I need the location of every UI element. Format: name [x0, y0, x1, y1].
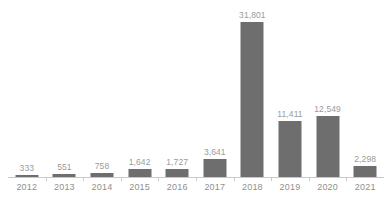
bar-value-label-2021: 2,298	[354, 154, 376, 164]
x-tick-mark	[46, 177, 47, 181]
bar-column: 1,642	[122, 4, 157, 177]
x-tick-mark	[83, 177, 84, 181]
bar-group-2013: 551	[47, 4, 82, 177]
bar-column: 758	[85, 4, 120, 177]
bar-column: 551	[47, 4, 82, 177]
bar-column: 11,411	[273, 4, 308, 177]
bar-value-label-2015: 1,642	[129, 157, 151, 167]
x-tick-2016: 2016	[160, 180, 195, 194]
x-tick-2020: 2020	[310, 180, 345, 194]
bar-chart: 3335517581,6421,7273,64131,80111,41112,5…	[0, 0, 392, 200]
bar-2016	[166, 169, 189, 177]
x-tick-mark	[121, 177, 122, 181]
bar-value-label-2012: 333	[20, 163, 34, 173]
x-tick-2021: 2021	[348, 180, 383, 194]
x-tick-mark	[196, 177, 197, 181]
bar-group-2021: 2,298	[348, 4, 383, 177]
x-tick-2017: 2017	[197, 180, 232, 194]
x-tick-2019: 2019	[273, 180, 308, 194]
bar-group-2015: 1,642	[122, 4, 157, 177]
plot-area: 3335517581,6421,7273,64131,80111,41112,5…	[8, 4, 384, 177]
bar-column: 3,641	[197, 4, 232, 177]
x-tick-mark	[158, 177, 159, 181]
bar-value-label-2017: 3,641	[204, 147, 226, 157]
x-tick-mark	[271, 177, 272, 181]
bar-2021	[354, 166, 377, 177]
bar-column: 1,727	[160, 4, 195, 177]
bar-group-2014: 758	[85, 4, 120, 177]
bar-group-2018: 31,801	[235, 4, 270, 177]
x-tick-mark	[234, 177, 235, 181]
bar-column: 333	[9, 4, 44, 177]
bar-group-2019: 11,411	[273, 4, 308, 177]
x-tick-2015: 2015	[122, 180, 157, 194]
bar-group-2016: 1,727	[160, 4, 195, 177]
x-tick-2013: 2013	[47, 180, 82, 194]
x-tick-mark	[309, 177, 310, 181]
bar-group-2012: 333	[9, 4, 44, 177]
bar-2015	[128, 169, 151, 177]
x-tick-2014: 2014	[85, 180, 120, 194]
bar-group-2017: 3,641	[197, 4, 232, 177]
bar-2018	[241, 22, 264, 177]
bar-column: 31,801	[235, 4, 270, 177]
x-tick-2018: 2018	[235, 180, 270, 194]
bar-column: 12,549	[310, 4, 345, 177]
bar-value-label-2013: 551	[57, 162, 71, 172]
bar-value-label-2019: 11,411	[277, 109, 302, 119]
bar-2020	[316, 116, 339, 177]
bar-2017	[203, 159, 226, 177]
bar-value-label-2016: 1,727	[166, 157, 188, 167]
bar-2019	[279, 121, 302, 177]
bar-value-label-2020: 12,549	[314, 104, 341, 114]
x-tick-mark	[346, 177, 347, 181]
bar-column: 2,298	[348, 4, 383, 177]
x-tick-2012: 2012	[9, 180, 44, 194]
bar-group-2020: 12,549	[310, 4, 345, 177]
bar-value-label-2014: 758	[95, 161, 109, 171]
bar-value-label-2018: 31,801	[239, 10, 266, 20]
x-axis-tick-labels: 2012201320142015201620172018201920202021	[8, 180, 384, 196]
